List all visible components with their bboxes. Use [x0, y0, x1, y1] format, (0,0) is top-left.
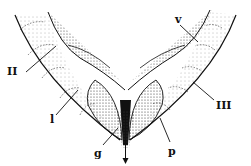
central-groove — [116, 100, 135, 148]
label-III: III — [216, 100, 231, 111]
label-l: l — [50, 114, 54, 125]
label-g: g — [94, 148, 102, 159]
label-p: p — [168, 146, 176, 157]
label-v: v — [175, 14, 181, 25]
right-arm — [68, 10, 236, 140]
label-II: II — [7, 66, 17, 77]
diagram-figure — [0, 0, 251, 166]
left-arm — [15, 12, 125, 140]
